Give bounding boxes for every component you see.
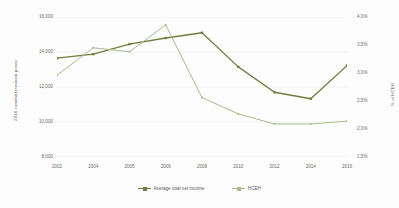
data-point-marker	[310, 98, 312, 100]
data-point-marker	[128, 43, 130, 45]
data-point-marker	[274, 123, 276, 125]
y-axis-right-tick-label: 3.5%	[357, 42, 391, 47]
x-axis-tick-label: 2010	[223, 164, 253, 169]
x-axis-tick-label: 2004	[78, 164, 108, 169]
y-axis-left-tick-label: 8,000	[19, 154, 53, 159]
legend-label: HCEH	[248, 186, 261, 191]
y-axis-right-tick-label: 4.0%	[357, 14, 391, 19]
data-point-marker	[273, 91, 275, 93]
data-point-marker	[237, 66, 239, 68]
y-axis-right-tick-label: 3.0%	[357, 70, 391, 75]
legend-entry[interactable]: HCEH	[232, 186, 261, 191]
legend-label: Average total net income	[154, 186, 205, 191]
legend-entry[interactable]: Average total net income	[138, 186, 204, 191]
data-point-marker	[201, 97, 203, 99]
y-axis-right-tick-label: 1.5%	[357, 154, 391, 159]
series-line-2	[57, 25, 347, 124]
data-point-marker	[92, 53, 94, 55]
y-axis-left-tick-label: 16,000	[19, 14, 53, 19]
x-axis-tick-label: 2012	[260, 164, 290, 169]
data-point-marker	[310, 123, 312, 125]
y-axis-left-tick-label: 12,000	[19, 84, 53, 89]
y-axis-left-tick-label: 14,000	[19, 49, 53, 54]
series-layer	[57, 24, 347, 125]
chart-legend: Average total net incomeHCEH	[0, 186, 399, 191]
data-point-marker	[346, 64, 347, 66]
series-line-1	[57, 33, 347, 99]
data-point-marker	[165, 37, 167, 39]
data-point-marker	[201, 32, 203, 34]
chart-container: 2016 constant mexican pesos % of HCEH 8,…	[0, 0, 399, 208]
x-axis-tick-label: 2008	[187, 164, 217, 169]
y-axis-left-title: 2016 constant mexican pesos	[13, 36, 18, 146]
x-axis-tick-label: 2002	[42, 164, 72, 169]
gridlines	[57, 17, 347, 157]
x-axis-tick-label: 2014	[296, 164, 326, 169]
x-axis-tick-label: 2005	[115, 164, 145, 169]
x-axis-tick-label: 2016	[332, 164, 362, 169]
y-axis-right-tick-label: 2.0%	[357, 126, 391, 131]
data-point-marker	[57, 74, 58, 76]
data-point-marker	[237, 113, 239, 115]
x-axis-tick-label: 2006	[151, 164, 181, 169]
y-axis-left-tick-label: 10,000	[19, 119, 53, 124]
legend-swatch-icon	[232, 186, 245, 191]
legend-swatch-icon	[138, 186, 151, 191]
data-point-marker	[129, 51, 131, 53]
data-point-marker	[346, 120, 347, 122]
data-point-marker	[165, 24, 167, 26]
data-point-marker	[92, 47, 94, 49]
y-axis-right-tick-label: 2.5%	[357, 98, 391, 103]
plot-area	[57, 17, 347, 157]
data-point-marker	[57, 57, 58, 59]
